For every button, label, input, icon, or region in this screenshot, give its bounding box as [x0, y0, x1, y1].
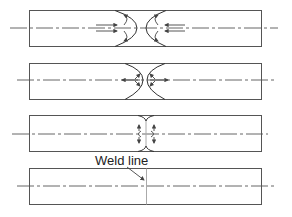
left-melt-front: [125, 64, 143, 100]
flow-arrow: [135, 74, 140, 79]
fountain-flow-arrow: [155, 15, 158, 25]
bottom-merge-front: [138, 146, 154, 152]
stage-4-panel: [17, 167, 274, 205]
mold-cavity: [30, 64, 262, 100]
stage-2-panel: [17, 64, 274, 100]
flow-arrow: [135, 81, 140, 86]
mold-cavity: [30, 169, 262, 205]
stage-3-panel: [12, 116, 268, 152]
fountain-flow-arrow: [155, 31, 158, 41]
fountain-flow-arrow: [124, 15, 127, 25]
weld-line-formation-diagram: [0, 0, 292, 217]
flow-curve: [139, 131, 142, 137]
mold-cavity: [30, 11, 262, 47]
right-melt-front: [147, 64, 165, 100]
stage-1-panel: [10, 11, 278, 47]
flow-arrow: [150, 81, 155, 86]
top-merge-front: [138, 116, 154, 122]
flow-arrow: [150, 74, 155, 79]
fountain-flow-arrow: [124, 31, 127, 41]
weld-line-label: Weld line: [95, 154, 148, 167]
